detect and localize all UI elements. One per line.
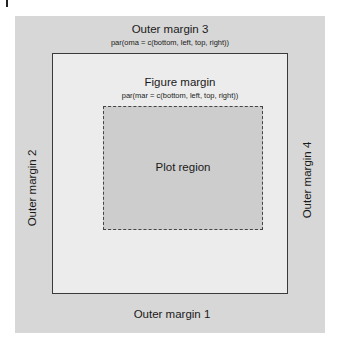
outer-margin-4-label: Outer margin 4 (301, 142, 313, 219)
outer-margin-2-label: Outer margin 2 (26, 150, 38, 227)
plot-region-label: Plot region (156, 161, 211, 173)
outer-margin-1-label: Outer margin 1 (134, 308, 211, 320)
mar-code-label: par(mar = c(bottom, left, top, right)) (122, 91, 239, 100)
figure-margin-label: Figure margin (145, 76, 216, 88)
crop-mark (6, 0, 8, 7)
outer-margin-3-label: Outer margin 3 (132, 23, 209, 35)
oma-code-label: par(oma = c(bottom, left, top, right)) (111, 38, 229, 47)
